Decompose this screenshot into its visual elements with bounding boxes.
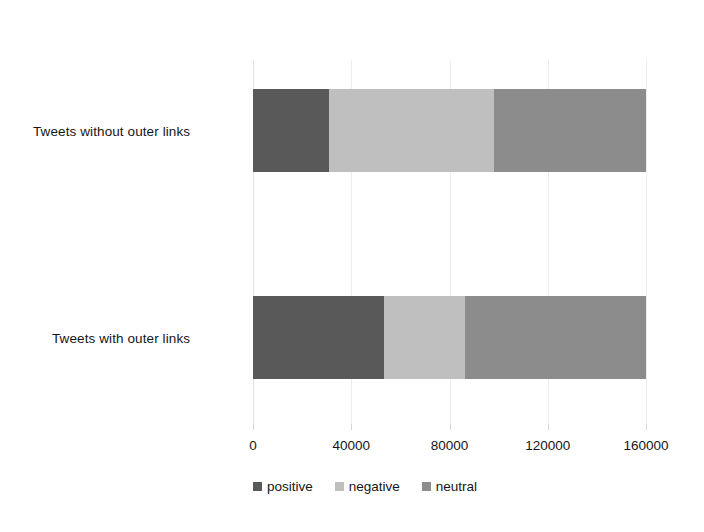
legend-swatch-icon [335,482,344,491]
plot-area [253,60,646,430]
axis-tick-label: 160000 [623,438,668,453]
axis-tick-label: 80000 [431,438,469,453]
legend-swatch-icon [422,482,431,491]
legend-item-negative[interactable]: negative [335,479,400,494]
axis-tick-mark [548,424,549,430]
axis-tick-label: 40000 [332,438,370,453]
bar-segment-positive [253,89,329,172]
legend-item-neutral[interactable]: neutral [422,479,477,494]
bar-segment-positive [253,296,384,379]
axis-tick-label: 120000 [525,438,570,453]
bar-segment-negative [384,296,465,379]
legend-swatch-icon [253,482,262,491]
legend-label: negative [349,479,400,494]
bar-segment-negative [329,89,494,172]
axis-tick-mark [450,424,451,430]
category-label-tweets-without-outer-links: Tweets without outer links [33,124,190,139]
axis-tick-mark [646,424,647,430]
gridline [646,60,647,430]
legend-label: positive [267,479,313,494]
axis-tick-mark [253,424,254,430]
value-axis: 04000080000120000160000 [253,430,646,460]
axis-tick-mark [351,424,352,430]
legend-label: neutral [436,479,477,494]
bar-segment-neutral [494,89,646,172]
bar-row [253,296,646,379]
legend-item-positive[interactable]: positive [253,479,313,494]
bar-row [253,89,646,172]
stacked-bar-chart: Tweets without outer links Tweets with o… [0,0,704,532]
category-label-tweets-with-outer-links: Tweets with outer links [52,331,190,346]
bar-segment-neutral [465,296,646,379]
axis-tick-label: 0 [249,438,257,453]
chart-legend: positivenegativeneutral [253,479,499,494]
